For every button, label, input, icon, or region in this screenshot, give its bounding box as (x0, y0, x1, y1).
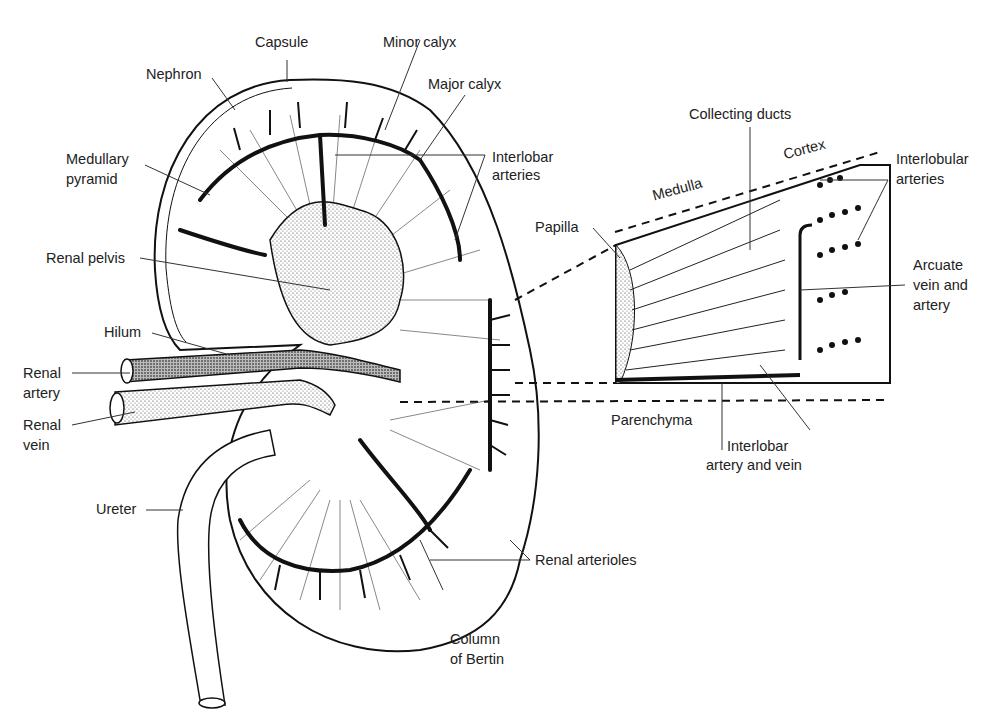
label-hilum: Hilum (104, 323, 141, 342)
label-column-of-bertin-1: Column (450, 630, 500, 649)
label-interlobar-av-2: artery and vein (706, 456, 802, 475)
label-renal-vein-2: vein (23, 436, 50, 455)
label-column-of-bertin-2: of Bertin (450, 650, 504, 669)
label-arcuate-3: artery (913, 296, 950, 315)
label-interlobar-arteries-1: Interlobar (492, 148, 553, 167)
label-renal-vein-1: Renal (23, 416, 61, 435)
label-capsule: Capsule (255, 33, 308, 52)
label-interlobar-av-1: Interlobar (727, 437, 788, 456)
label-ureter: Ureter (96, 500, 136, 519)
label-renal-artery-1: Renal (23, 364, 61, 383)
label-major-calyx: Major calyx (428, 75, 501, 94)
label-interlobular-arteries-2: arteries (896, 170, 944, 189)
label-medullary-pyramid-1: Medullary (66, 150, 129, 169)
label-papilla: Papilla (535, 218, 579, 237)
label-collecting-ducts: Collecting ducts (689, 105, 791, 124)
label-medullary-pyramid-2: pyramid (66, 170, 118, 189)
label-interlobular-arteries-1: Interlobular (896, 150, 969, 169)
label-renal-artery-2: artery (23, 384, 60, 403)
label-arcuate-1: Arcuate (913, 256, 963, 275)
kidney-illustration (0, 0, 1004, 718)
label-renal-arterioles: Renal arterioles (535, 551, 637, 570)
label-arcuate-2: vein and (913, 276, 968, 295)
label-parenchyma: Parenchyma (611, 411, 692, 430)
label-interlobar-arteries-2: arteries (492, 166, 540, 185)
label-nephron: Nephron (146, 65, 202, 84)
label-renal-pelvis: Renal pelvis (46, 249, 125, 268)
label-minor-calyx: Minor calyx (383, 33, 456, 52)
